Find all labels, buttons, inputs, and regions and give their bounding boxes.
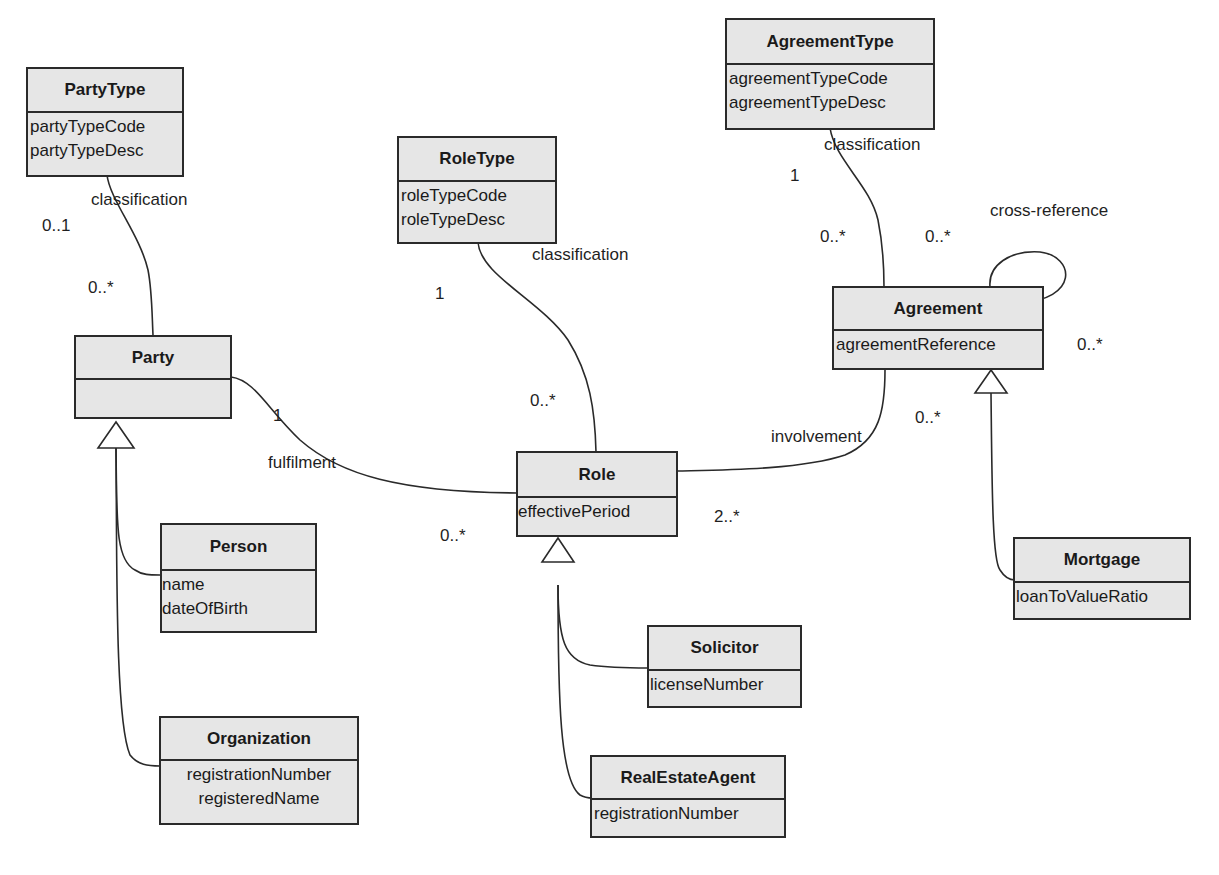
attribute: registeredName bbox=[163, 787, 355, 811]
association-label-involvement: involvement bbox=[771, 427, 862, 447]
class-name: Person bbox=[162, 525, 315, 571]
class-attributes: registrationNumber registeredName bbox=[161, 761, 357, 813]
class-agreementtype: AgreementType agreementTypeCode agreemen… bbox=[725, 18, 935, 130]
class-attributes: effectivePeriod bbox=[518, 498, 676, 526]
class-name: Party bbox=[76, 337, 230, 380]
multiplicity-fulfilment-role: 0..* bbox=[440, 526, 466, 546]
attribute: name bbox=[162, 573, 313, 597]
attribute: licenseNumber bbox=[650, 673, 798, 697]
class-roletype: RoleType roleTypeCode roleTypeDesc bbox=[397, 136, 557, 244]
generalization-line-person bbox=[116, 448, 160, 575]
association-label-partytype: classification bbox=[91, 190, 187, 210]
class-attributes: partyTypeCode partyTypeDesc bbox=[28, 113, 182, 165]
class-realestateagent: RealEstateAgent registrationNumber bbox=[590, 755, 786, 838]
uml-diagram: PartyType partyTypeCode partyTypeDesc Pa… bbox=[0, 0, 1219, 875]
association-line-roletype-role bbox=[478, 242, 596, 452]
multiplicity-involvement-agreement: 0..* bbox=[915, 408, 941, 428]
class-name: Organization bbox=[161, 718, 357, 761]
association-label-fulfilment: fulfilment bbox=[268, 453, 336, 473]
attribute: agreementReference bbox=[836, 333, 1040, 357]
multiplicity-roletype: 1 bbox=[435, 284, 444, 304]
attribute: registrationNumber bbox=[163, 763, 355, 787]
class-solicitor: Solicitor licenseNumber bbox=[647, 625, 802, 708]
generalization-arrow-agreement bbox=[975, 370, 1007, 393]
multiplicity-agreementtype: 1 bbox=[790, 166, 799, 186]
association-line-involvement bbox=[677, 370, 885, 471]
attribute: roleTypeCode bbox=[401, 184, 553, 208]
class-party: Party bbox=[74, 335, 232, 419]
generalization-arrow-role bbox=[542, 538, 574, 562]
generalization-line-realestateagent bbox=[558, 585, 593, 798]
multiplicity-crossref-left: 0..* bbox=[925, 227, 951, 247]
class-partytype: PartyType partyTypeCode partyTypeDesc bbox=[26, 67, 184, 177]
class-role: Role effectivePeriod bbox=[516, 451, 678, 537]
class-name: RoleType bbox=[399, 138, 555, 182]
association-label-agreementtype: classification bbox=[824, 135, 920, 155]
attribute: effectivePeriod bbox=[518, 500, 674, 524]
class-name: Role bbox=[518, 453, 676, 498]
class-attributes: agreementTypeCode agreementTypeDesc bbox=[727, 65, 933, 117]
attribute: partyTypeCode bbox=[30, 115, 180, 139]
attribute: registrationNumber bbox=[594, 802, 782, 826]
class-person: Person name dateOfBirth bbox=[160, 523, 317, 633]
class-name: Solicitor bbox=[649, 627, 800, 671]
multiplicity-fulfilment-party: 1 bbox=[273, 406, 282, 426]
generalization-line-organization bbox=[116, 448, 160, 766]
association-label-roletype: classification bbox=[532, 245, 628, 265]
class-attributes: roleTypeCode roleTypeDesc bbox=[399, 182, 555, 234]
multiplicity-role-top: 0..* bbox=[530, 391, 556, 411]
class-organization: Organization registrationNumber register… bbox=[159, 716, 359, 825]
attribute: agreementTypeCode bbox=[729, 67, 931, 91]
class-name: Mortgage bbox=[1015, 539, 1189, 583]
class-name: PartyType bbox=[28, 69, 182, 113]
attribute: partyTypeDesc bbox=[30, 139, 180, 163]
attribute: dateOfBirth bbox=[162, 597, 313, 621]
multiplicity-partytype: 0..1 bbox=[42, 216, 70, 236]
generalization-line-solicitor bbox=[558, 585, 648, 668]
multiplicity-party-top: 0..* bbox=[88, 278, 114, 298]
class-name: AgreementType bbox=[727, 20, 933, 65]
class-agreement: Agreement agreementReference bbox=[832, 286, 1044, 370]
class-attributes: licenseNumber bbox=[649, 671, 800, 699]
generalization-line-mortgage bbox=[991, 393, 1015, 580]
class-attributes: registrationNumber bbox=[592, 800, 784, 828]
generalization-arrow-party bbox=[98, 422, 134, 448]
class-attributes: loanToValueRatio bbox=[1015, 583, 1189, 611]
class-attributes: name dateOfBirth bbox=[162, 571, 315, 623]
attribute: agreementTypeDesc bbox=[729, 91, 931, 115]
attribute: roleTypeDesc bbox=[401, 208, 553, 232]
multiplicity-crossref-right: 0..* bbox=[1077, 335, 1103, 355]
class-name: RealEstateAgent bbox=[592, 757, 784, 800]
class-attributes: agreementReference bbox=[834, 331, 1042, 359]
attribute: loanToValueRatio bbox=[1016, 585, 1187, 609]
association-label-crossref: cross-reference bbox=[990, 201, 1108, 221]
association-line-fulfilment bbox=[231, 377, 517, 493]
class-attributes bbox=[76, 380, 230, 384]
class-name: Agreement bbox=[834, 288, 1042, 331]
multiplicity-involvement-role: 2..* bbox=[714, 507, 740, 527]
multiplicity-agreement-top: 0..* bbox=[820, 227, 846, 247]
class-mortgage: Mortgage loanToValueRatio bbox=[1013, 537, 1191, 620]
